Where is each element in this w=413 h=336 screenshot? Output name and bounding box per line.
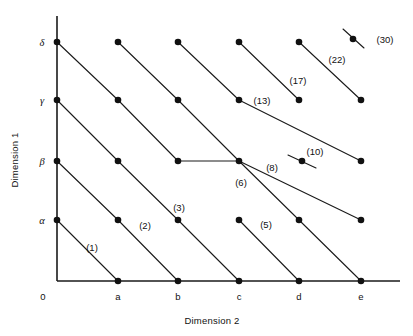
x-tick-label-b: b bbox=[175, 291, 180, 302]
curve-label-10: (10) bbox=[307, 146, 324, 157]
data-markers-group bbox=[54, 36, 365, 285]
x-tick-label-e: e bbox=[358, 291, 363, 302]
curve-label-2: (2) bbox=[139, 220, 151, 231]
data-point bbox=[236, 278, 243, 285]
origin-label: 0 bbox=[40, 291, 45, 302]
y-tick-label-delta: δ bbox=[40, 37, 46, 48]
curve-label-1: (1) bbox=[86, 242, 98, 253]
y-tick-label-beta: β bbox=[38, 156, 45, 167]
curve-label-30: (30) bbox=[377, 34, 394, 45]
curve-label-5: (5) bbox=[260, 219, 272, 230]
x-axis-title: Dimension 2 bbox=[184, 315, 239, 326]
y-tick-labels-group: δ γ β α 0 bbox=[38, 37, 45, 302]
curve-label-13: (13) bbox=[254, 95, 271, 106]
data-point bbox=[175, 97, 182, 104]
curve-label-6: (6) bbox=[235, 177, 247, 188]
data-point bbox=[358, 278, 365, 285]
data-point bbox=[54, 217, 61, 224]
y-tick-label-alpha: α bbox=[39, 215, 45, 226]
data-point bbox=[296, 278, 303, 285]
data-point bbox=[236, 217, 243, 224]
data-point bbox=[115, 97, 122, 104]
data-point bbox=[54, 97, 61, 104]
x-tick-label-a: a bbox=[115, 291, 121, 302]
data-point bbox=[236, 158, 243, 165]
data-point bbox=[175, 39, 182, 46]
x-tick-label-d: d bbox=[296, 291, 301, 302]
data-point bbox=[358, 217, 365, 224]
data-point bbox=[54, 158, 61, 165]
data-point bbox=[175, 217, 182, 224]
y-tick-label-gamma: γ bbox=[40, 95, 45, 106]
data-point bbox=[175, 278, 182, 285]
curve-label-22: (22) bbox=[329, 54, 346, 65]
data-point bbox=[175, 158, 182, 165]
curve-label-3: (3) bbox=[173, 202, 185, 213]
data-point bbox=[54, 39, 61, 46]
curve-8 bbox=[118, 42, 361, 220]
chart-svg: δ γ β α 0 a b c d e (1) (2) (3) (5) (6) … bbox=[0, 0, 413, 336]
data-point bbox=[115, 39, 122, 46]
data-point bbox=[236, 39, 243, 46]
data-point bbox=[296, 217, 303, 224]
data-point bbox=[350, 36, 357, 43]
axes-group bbox=[57, 16, 400, 281]
x-tick-label-c: c bbox=[237, 291, 242, 302]
curve-label-17: (17) bbox=[290, 75, 307, 86]
figure-canvas: δ γ β α 0 a b c d e (1) (2) (3) (5) (6) … bbox=[0, 0, 413, 336]
data-point bbox=[115, 158, 122, 165]
y-axis-title: Dimension 1 bbox=[9, 132, 20, 187]
data-point bbox=[236, 97, 243, 104]
data-point bbox=[115, 217, 122, 224]
data-point bbox=[296, 97, 303, 104]
data-point bbox=[358, 97, 365, 104]
x-tick-labels-group: a b c d e bbox=[115, 291, 363, 302]
data-point bbox=[296, 39, 303, 46]
curve-22 bbox=[299, 42, 361, 100]
data-point bbox=[299, 158, 306, 165]
data-point bbox=[115, 278, 122, 285]
curve-17 bbox=[239, 42, 299, 100]
curve-6 bbox=[57, 42, 361, 281]
curve-label-8: (8) bbox=[266, 162, 278, 173]
data-point bbox=[358, 158, 365, 165]
curve-3 bbox=[57, 100, 239, 281]
